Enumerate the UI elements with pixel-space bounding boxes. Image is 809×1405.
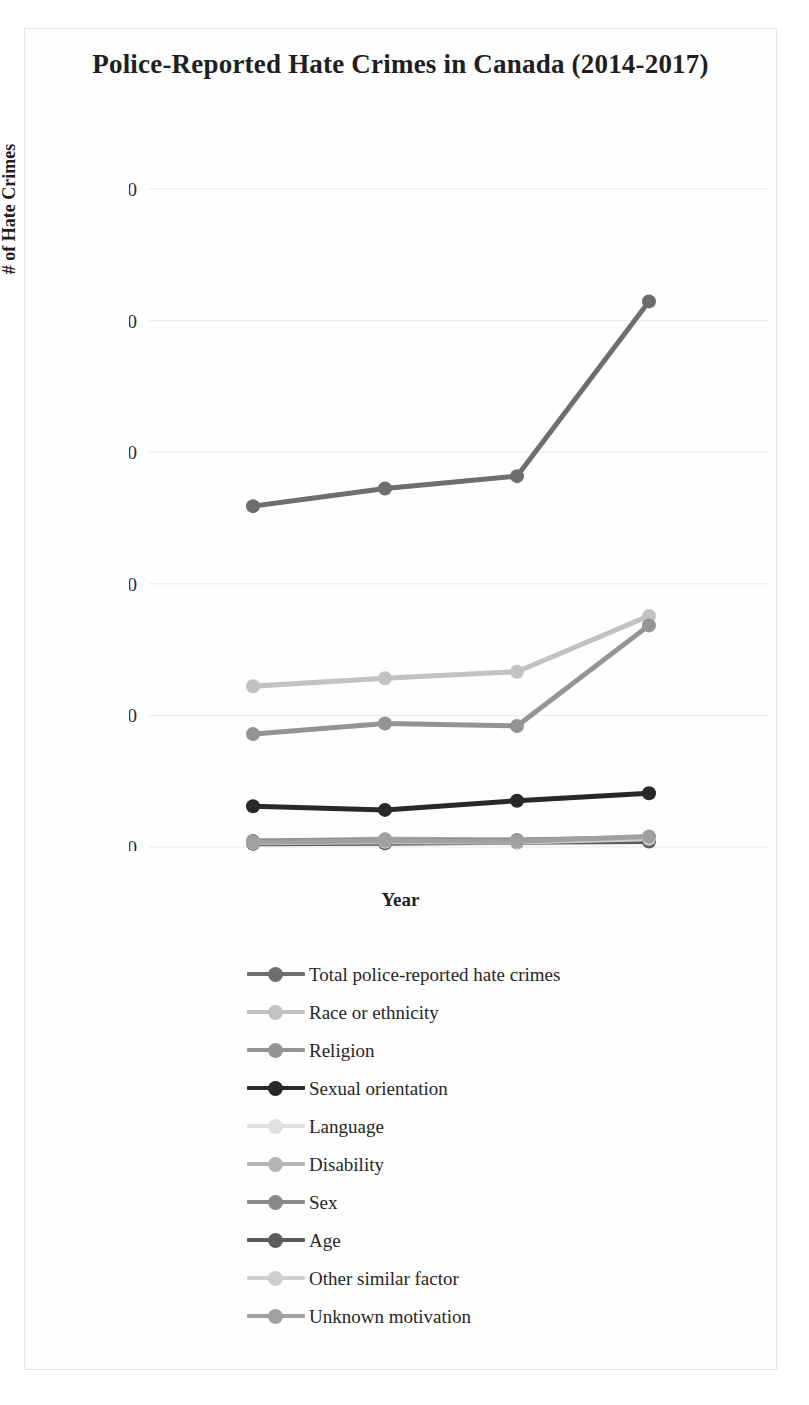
series-line bbox=[253, 793, 649, 810]
series-points bbox=[246, 294, 656, 850]
legend-dot-swatch bbox=[268, 1005, 283, 1020]
legend-item[interactable]: Unknown motivation bbox=[247, 1297, 667, 1335]
legend-marker-icon bbox=[247, 1308, 305, 1324]
legend-dot-swatch bbox=[268, 1233, 283, 1248]
data-point bbox=[246, 799, 260, 813]
legend-dot-swatch bbox=[268, 967, 283, 982]
legend-item[interactable]: Other similar factor bbox=[247, 1259, 667, 1297]
legend-item-label: Age bbox=[309, 1231, 341, 1250]
legend-marker-icon bbox=[247, 1194, 305, 1210]
plot-area: 05001,0001,5002,0002,500 201420152016201… bbox=[129, 161, 778, 851]
data-point bbox=[378, 482, 392, 496]
data-point bbox=[246, 727, 260, 741]
chart-title: Police-Reported Hate Crimes in Canada (2… bbox=[25, 47, 776, 81]
legend-item-label: Disability bbox=[309, 1155, 384, 1174]
data-point bbox=[510, 665, 524, 679]
legend-marker-icon bbox=[247, 1118, 305, 1134]
legend-item-label: Total police-reported hate crimes bbox=[309, 965, 560, 984]
y-tick-labels: 05001,0001,5002,0002,500 bbox=[129, 179, 137, 851]
legend-marker-icon bbox=[247, 1042, 305, 1058]
series-lines bbox=[253, 301, 649, 843]
legend-marker-icon bbox=[247, 966, 305, 982]
legend-marker-icon bbox=[247, 1232, 305, 1248]
legend-item[interactable]: Race or ethnicity bbox=[247, 993, 667, 1031]
legend-item-label: Sex bbox=[309, 1193, 338, 1212]
data-point bbox=[642, 829, 656, 843]
legend-dot-swatch bbox=[268, 1081, 283, 1096]
legend-marker-icon bbox=[247, 1156, 305, 1172]
legend-marker-icon bbox=[247, 1004, 305, 1020]
data-point bbox=[378, 803, 392, 817]
chart-legend: Total police-reported hate crimesRace or… bbox=[247, 955, 667, 1335]
legend-item[interactable]: Sex bbox=[247, 1183, 667, 1221]
legend-item-label: Other similar factor bbox=[309, 1269, 459, 1288]
x-axis-title: Year bbox=[25, 889, 776, 911]
data-point bbox=[642, 618, 656, 632]
legend-item-label: Religion bbox=[309, 1041, 374, 1060]
legend-dot-swatch bbox=[268, 1119, 283, 1134]
legend-item-label: Race or ethnicity bbox=[309, 1003, 439, 1022]
legend-item-label: Unknown motivation bbox=[309, 1307, 471, 1326]
y-tick-label: 1,000 bbox=[129, 574, 137, 595]
data-point bbox=[510, 794, 524, 808]
data-point bbox=[378, 717, 392, 731]
legend-marker-icon bbox=[247, 1270, 305, 1286]
data-point bbox=[642, 294, 656, 308]
data-point bbox=[510, 834, 524, 848]
data-point bbox=[246, 679, 260, 693]
legend-dot-swatch bbox=[268, 1195, 283, 1210]
data-point bbox=[510, 469, 524, 483]
y-tick-label: 2,000 bbox=[129, 311, 137, 332]
legend-dot-swatch bbox=[268, 1271, 283, 1286]
data-point bbox=[246, 835, 260, 849]
legend-item[interactable]: Religion bbox=[247, 1031, 667, 1069]
line-chart-svg: 05001,0001,5002,0002,500 201420152016201… bbox=[129, 161, 778, 851]
series-line bbox=[253, 301, 649, 506]
legend-item[interactable]: Sexual orientation bbox=[247, 1069, 667, 1107]
legend-item[interactable]: Disability bbox=[247, 1145, 667, 1183]
y-tick-label: 0 bbox=[129, 837, 137, 851]
legend-item-label: Language bbox=[309, 1117, 384, 1136]
legend-item[interactable]: Language bbox=[247, 1107, 667, 1145]
data-point bbox=[246, 499, 260, 513]
y-tick-label: 1,500 bbox=[129, 442, 137, 463]
data-point bbox=[378, 834, 392, 848]
data-point bbox=[642, 786, 656, 800]
y-axis-title: # of Hate Crimes bbox=[0, 89, 20, 329]
legend-item-label: Sexual orientation bbox=[309, 1079, 448, 1098]
legend-dot-swatch bbox=[268, 1043, 283, 1058]
y-tick-label: 2,500 bbox=[129, 179, 137, 200]
y-tick-label: 500 bbox=[129, 705, 137, 726]
chart-figure: Police-Reported Hate Crimes in Canada (2… bbox=[24, 28, 777, 1370]
legend-item[interactable]: Age bbox=[247, 1221, 667, 1259]
data-point bbox=[510, 719, 524, 733]
legend-marker-icon bbox=[247, 1080, 305, 1096]
legend-dot-swatch bbox=[268, 1157, 283, 1172]
series-line bbox=[253, 616, 649, 686]
gridlines bbox=[149, 189, 769, 847]
legend-item[interactable]: Total police-reported hate crimes bbox=[247, 955, 667, 993]
legend-dot-swatch bbox=[268, 1309, 283, 1324]
data-point bbox=[378, 671, 392, 685]
